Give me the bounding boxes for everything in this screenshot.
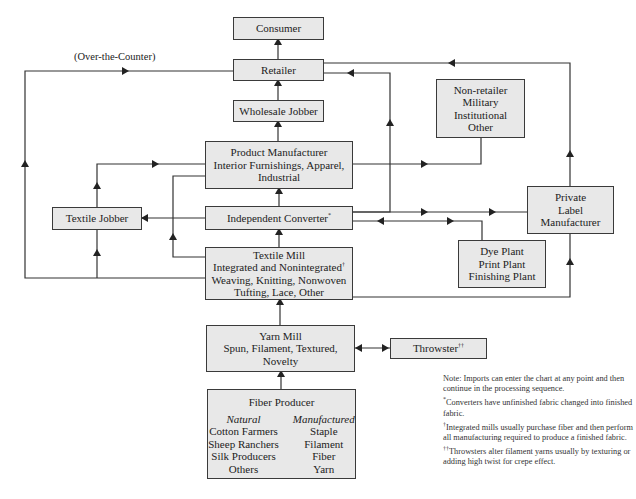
node-independent-converter-label: Independent Converter* (227, 212, 331, 225)
node-textile-mill-line: Weaving, Knitting, Nonwoven (212, 274, 347, 287)
footnote-mark: * (328, 212, 331, 218)
node-product-manufacturer-line: Industrial (258, 171, 300, 184)
note-integrated: †Integrated mills usually purchase fiber… (443, 423, 633, 443)
manufacturer-to-non-retailer-line (352, 137, 481, 164)
node-dye-plant: Dye Plant Print Plant Finishing Plant (458, 240, 546, 288)
node-non-retailer-line: Military (462, 96, 498, 109)
fiber-natural-column: Natural Cotton Farmers Sheep Ranchers Si… (208, 413, 279, 476)
node-private-label-line: Private (555, 191, 586, 204)
node-textile-jobber: Textile Jobber (52, 207, 142, 230)
fiber-manufactured-item: Staple (310, 425, 338, 438)
node-non-retailer-line: Other (468, 121, 493, 134)
node-yarn-mill: Yarn Mill Spun, Filament, Textured, Nove… (206, 325, 355, 372)
over-the-counter-label: (Over-the-Counter) (74, 51, 155, 62)
node-textile-mill-title: Textile Mill (253, 249, 305, 262)
node-private-label-line: Label (558, 204, 583, 217)
node-dye-plant-line: Finishing Plant (469, 270, 536, 283)
fiber-natural-heading: Natural (226, 413, 260, 426)
footnote-mark: †† (458, 343, 464, 349)
note-integrated-text: Integrated mills usually purchase fiber … (443, 423, 633, 442)
node-fiber-producer: Fiber Producer Natural Cotton Farmers Sh… (207, 389, 356, 479)
node-consumer: Consumer (233, 17, 324, 40)
throwster-text: Throwster (413, 342, 458, 354)
footnotes: Note: Imports can enter the chart at any… (443, 374, 633, 472)
mill-to-manufacturer-line (173, 176, 205, 257)
node-textile-jobber-label: Textile Jobber (66, 212, 128, 225)
node-dye-plant-line: Dye Plant (480, 245, 524, 258)
note-converters: *Converters have unfinished fabric chang… (443, 398, 633, 418)
node-textile-mill-line: Integrated and Nonintegrated† (213, 261, 345, 274)
textile-jobber-to-manufacturer-line (97, 164, 205, 207)
node-throwster: Throwster†† (390, 338, 487, 359)
converter-text: Independent Converter (227, 212, 328, 224)
node-independent-converter: Independent Converter* (205, 206, 353, 230)
fiber-manufactured-item: Yarn (313, 463, 334, 476)
fiber-manufactured-column: Manufactured Staple Filament Fiber Yarn (293, 413, 355, 476)
fiber-natural-item: Silk Producers (211, 450, 275, 463)
node-fiber-producer-title: Fiber Producer (249, 396, 315, 409)
node-wholesale-jobber-label: Wholesale Jobber (239, 105, 318, 118)
fiber-manufactured-heading: Manufactured (293, 413, 355, 426)
node-consumer-label: Consumer (256, 22, 301, 35)
node-wholesale-jobber: Wholesale Jobber (233, 100, 324, 122)
node-product-manufacturer-title: Product Manufacturer (231, 146, 328, 159)
fiber-manufactured-item: Fiber (312, 450, 335, 463)
node-yarn-mill-title: Yarn Mill (259, 330, 302, 343)
node-product-manufacturer-line: Interior Furnishings, Apparel, (214, 159, 345, 172)
note-imports: Note: Imports can enter the chart at any… (443, 374, 633, 394)
node-retailer-label: Retailer (261, 64, 296, 77)
node-retailer: Retailer (233, 59, 324, 81)
node-throwster-label: Throwster†† (413, 342, 464, 355)
node-yarn-mill-line: Spun, Filament, Textured, (223, 342, 337, 355)
note-throwsters-text: Throwsters alter filament yarns usually … (443, 447, 630, 466)
note-throwsters: ††Throwsters alter filament yarns usuall… (443, 447, 633, 467)
fiber-manufactured-item: Filament (304, 438, 343, 451)
node-private-label-line: Manufacturer (541, 216, 601, 229)
fiber-natural-item: Cotton Farmers (209, 425, 278, 438)
fiber-natural-item: Others (229, 463, 258, 476)
node-non-retailer-line: Institutional (454, 109, 507, 122)
fiber-natural-item: Sheep Ranchers (208, 438, 279, 451)
note-converters-text: Converters have unfinished fabric change… (443, 398, 632, 417)
node-yarn-mill-line: Novelty (263, 355, 298, 368)
node-private-label-manufacturer: Private Label Manufacturer (527, 186, 614, 234)
converter-dye-plant-line (352, 221, 482, 240)
node-textile-mill-line: Tufting, Lace, Other (234, 286, 324, 299)
footnote-mark: † (342, 261, 345, 267)
node-dye-plant-line: Print Plant (479, 258, 526, 271)
textile-mill-type: Integrated and Nonintegrated (213, 261, 342, 273)
node-textile-mill: Textile Mill Integrated and Nonintegrate… (205, 247, 353, 300)
node-non-retailer-title: Non-retailer (454, 84, 508, 97)
node-non-retailer: Non-retailer Military Institutional Othe… (436, 79, 525, 138)
over-the-counter-line (25, 71, 233, 278)
node-product-manufacturer: Product Manufacturer Interior Furnishing… (205, 141, 353, 189)
